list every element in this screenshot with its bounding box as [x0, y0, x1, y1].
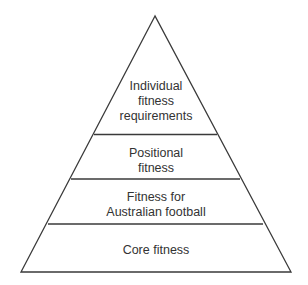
level-label-line: Positional: [129, 146, 183, 160]
level-positional-fitness: Positional fitness: [129, 146, 183, 175]
level-label-line: requirements: [120, 109, 193, 123]
level-label-line: fitness: [138, 161, 174, 175]
level-individual-fitness-requirements: Individual fitness requirements: [120, 79, 193, 123]
level-label-line: Australian football: [106, 205, 205, 219]
level-label-line: Fitness for: [127, 190, 185, 204]
level-core-fitness: Core fitness: [123, 243, 190, 257]
level-label-line: Core fitness: [123, 243, 190, 257]
level-fitness-for-australian-football: Fitness for Australian football: [106, 190, 205, 219]
pyramid-outline: [21, 16, 291, 272]
fitness-pyramid-diagram: Individual fitness requirements Position…: [0, 0, 308, 285]
level-label-line: Individual: [130, 79, 183, 93]
level-label-line: fitness: [138, 94, 174, 108]
